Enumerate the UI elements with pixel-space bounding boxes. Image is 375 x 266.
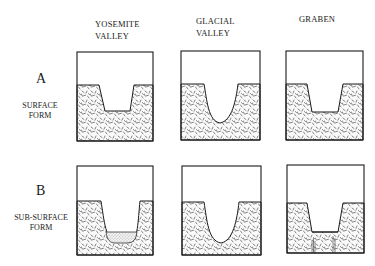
panel-b-glacial xyxy=(182,166,261,255)
panel-a-graben xyxy=(286,51,363,140)
panel-b-yosemite xyxy=(77,166,153,255)
sediment-fill xyxy=(106,232,137,243)
diagram-canvas xyxy=(0,0,375,266)
panel-a-yosemite xyxy=(77,52,153,141)
panel-a-glacial xyxy=(181,51,260,140)
panel-b-graben xyxy=(287,165,364,253)
